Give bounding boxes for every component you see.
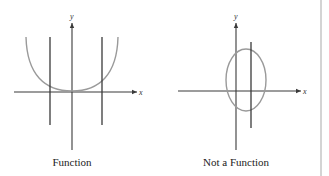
x-axis-label: x — [138, 88, 143, 97]
not-function-graph: x y — [178, 12, 307, 150]
y-axis-label: y — [69, 12, 74, 21]
x-axis-label: x — [302, 87, 307, 96]
y-axis-label: y — [233, 12, 238, 21]
vertical-line-test-diagram: x y x y — [0, 0, 329, 176]
page-edge-divider — [320, 0, 322, 176]
ellipse-curve — [226, 49, 266, 111]
function-caption: Function — [12, 156, 132, 168]
function-graph: x y — [14, 12, 143, 150]
not-function-caption: Not a Function — [176, 156, 296, 168]
